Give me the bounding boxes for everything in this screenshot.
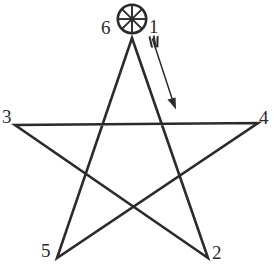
wheel-icon [118, 5, 146, 33]
vertex-label-6: 6 [101, 18, 111, 37]
vertex-label-1: 1 [149, 17, 159, 36]
figure-root: 1 2 3 4 5 6 [0, 0, 277, 272]
star-path [15, 38, 258, 258]
wheel-icon-hub [130, 17, 134, 21]
star-stroke-group [15, 38, 258, 258]
vertex-label-2: 2 [212, 243, 222, 262]
vertex-label-4: 4 [259, 108, 269, 127]
vertex-label-5: 5 [41, 241, 51, 260]
vertex-label-3: 3 [2, 107, 12, 126]
direction-arrow-head [168, 98, 177, 110]
pentagram-diagram [0, 0, 277, 272]
direction-arrow-shaft [153, 39, 174, 103]
